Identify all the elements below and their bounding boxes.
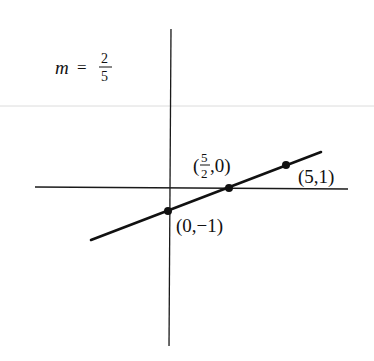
- slope-eq: =: [77, 58, 87, 77]
- slope-diagram: m = 2 5 ( 5 2 ,0) (5,1) (0,−1): [0, 0, 374, 361]
- label-y-intercept: (0,−1): [176, 215, 223, 237]
- x-axis: [35, 187, 348, 189]
- point-y-intercept: [164, 207, 172, 215]
- svg-text:,0): ,0): [210, 155, 231, 177]
- slope-num: 2: [101, 51, 108, 66]
- slope-var: m: [55, 57, 69, 78]
- point-5-1: [282, 161, 290, 169]
- svg-text:5: 5: [201, 150, 208, 165]
- svg-text:2: 2: [201, 166, 208, 181]
- slope-label: m = 2 5: [55, 51, 112, 84]
- svg-text:(: (: [193, 155, 199, 177]
- slope-den: 5: [101, 69, 108, 84]
- label-point-5-1: (5,1): [298, 166, 334, 188]
- label-x-intercept: ( 5 2 ,0): [193, 150, 231, 181]
- point-x-intercept: [225, 184, 233, 192]
